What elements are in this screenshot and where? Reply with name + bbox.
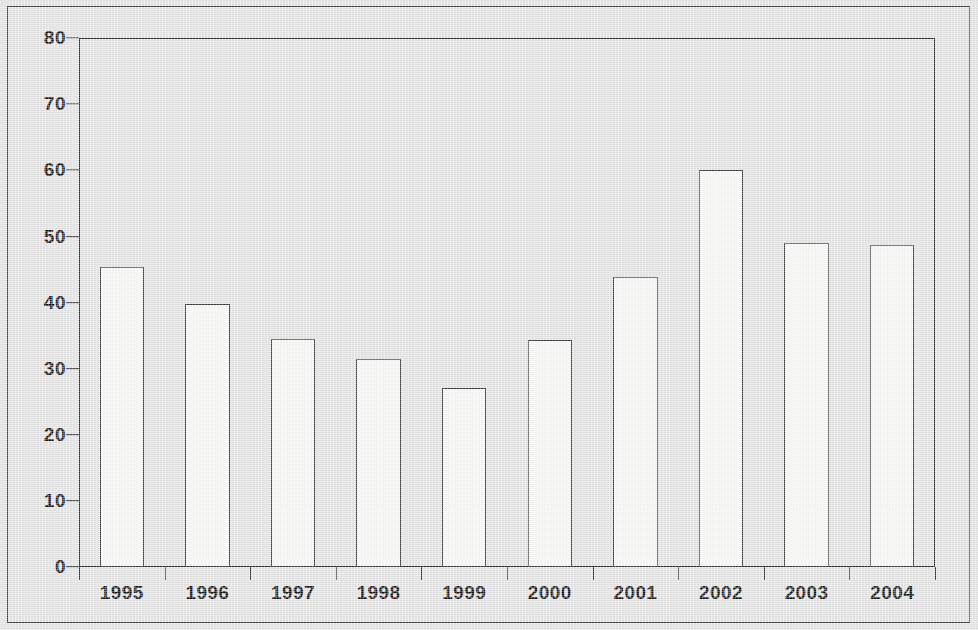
x-tick-label: 2003 [785, 582, 829, 604]
y-tick-mark [66, 169, 79, 170]
x-tick-mark [165, 567, 166, 580]
bar [271, 339, 316, 567]
x-tick-mark [421, 567, 422, 580]
y-axis: 80 70 60 50 40 30 20 10 0 [22, 0, 66, 630]
y-tick-label: 10 [44, 490, 66, 512]
bar [613, 277, 658, 567]
x-tick-mark [336, 567, 337, 580]
bar [870, 245, 915, 567]
bar [356, 359, 401, 567]
y-tick-mark [66, 566, 79, 567]
bar-chart: 80 70 60 50 40 30 20 10 0 19951996199719… [0, 0, 978, 630]
y-tick-mark [66, 236, 79, 237]
x-tick-label: 2000 [528, 582, 572, 604]
bar [699, 170, 744, 567]
y-tick-label: 30 [44, 358, 66, 380]
bar [100, 267, 145, 567]
y-tick-mark [66, 302, 79, 303]
x-tick-mark [79, 567, 80, 580]
bar [784, 243, 829, 567]
y-tick-mark [66, 103, 79, 104]
y-tick-label: 80 [44, 27, 66, 49]
x-tick-label: 1999 [442, 582, 486, 604]
bar [185, 304, 230, 567]
x-tick-mark [935, 567, 936, 580]
y-tick-label: 50 [44, 226, 66, 248]
x-tick-mark [678, 567, 679, 580]
x-tick-label: 1998 [357, 582, 401, 604]
y-tick-label: 20 [44, 424, 66, 446]
y-tick-label: 0 [55, 556, 66, 578]
x-tick-mark [593, 567, 594, 580]
x-tick-label: 2001 [613, 582, 657, 604]
chart-page: 80 70 60 50 40 30 20 10 0 19951996199719… [0, 0, 978, 630]
x-tick-mark [250, 567, 251, 580]
x-tick-mark [849, 567, 850, 580]
x-tick-mark [507, 567, 508, 580]
y-tick-mark [66, 37, 79, 38]
y-tick-label: 60 [44, 159, 66, 181]
y-tick-label: 40 [44, 292, 66, 314]
x-tick-label: 1997 [271, 582, 315, 604]
y-tick-mark [66, 434, 79, 435]
y-tick-label: 70 [44, 93, 66, 115]
x-tick-label: 1995 [100, 582, 144, 604]
bar [442, 388, 487, 567]
y-tick-mark [66, 500, 79, 501]
x-tick-label: 2002 [699, 582, 743, 604]
x-tick-mark [764, 567, 765, 580]
y-tick-mark [66, 368, 79, 369]
bar [528, 340, 573, 567]
x-tick-label: 2004 [870, 582, 914, 604]
x-tick-label: 1996 [185, 582, 229, 604]
